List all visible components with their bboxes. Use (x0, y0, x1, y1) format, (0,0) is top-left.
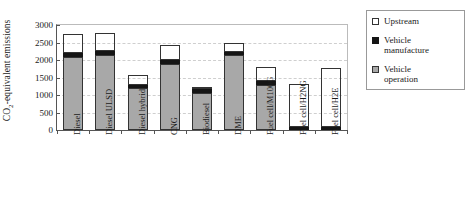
y-axis-tick-label: 3000 (35, 20, 57, 30)
legend-item-label: Vehiclemanufacture (384, 35, 429, 55)
y-axis-title-text: CO2-equivalent emissions (3, 19, 16, 121)
x-axis-label-text: Biodiesel (201, 103, 211, 135)
y-axis-tick-label: 500 (40, 108, 58, 118)
x-axis-tick (347, 130, 348, 134)
x-axis-label-text: Diesel (72, 113, 82, 135)
x-axis-tick (89, 130, 90, 134)
chart-figure: CO2-equivalent emissions 050010001500200… (0, 0, 469, 209)
x-axis-tick (154, 130, 155, 134)
chart-legend: UpstreamVehiclemanufactureVehicleoperati… (366, 10, 465, 90)
legend-swatch-operation-icon (372, 66, 379, 73)
y-axis-tick-label: 1500 (35, 73, 57, 83)
x-axis-label-diesel-ulsd: Diesel ULSD (98, 135, 110, 207)
legend-item-upstream[interactable]: Upstream (372, 16, 460, 26)
x-axis-tick (283, 130, 284, 134)
legend-swatch-upstream-icon (372, 18, 379, 25)
bar-segment-manufacture (128, 85, 148, 89)
y-axis-tick-label: 0 (49, 125, 58, 135)
legend-item-operation[interactable]: Vehicleoperation (372, 64, 460, 84)
legend-item-manufacture[interactable]: Vehiclemanufacture (372, 35, 460, 55)
bar-segment-undefined (63, 34, 83, 53)
y-axis-tick-label: 1000 (35, 90, 57, 100)
bar-segment-undefined (95, 33, 115, 52)
x-axis-tick (315, 130, 316, 134)
x-axis-label-diesel: Diesel (66, 135, 78, 207)
x-axis-label-fuel-cell-h2ng: Fuel cell/H2NG (292, 135, 304, 207)
bar-segment-undefined (192, 87, 212, 89)
bar-segment-manufacture (192, 89, 212, 93)
y-axis-tick-label: 2500 (35, 38, 57, 48)
bar-segment-undefined (160, 45, 180, 60)
y-axis-title: CO2-equivalent emissions (0, 0, 18, 140)
x-axis-label-fuel-cell-m100g: Fuel cell/M100G (259, 135, 271, 207)
x-axis-tick (250, 130, 251, 134)
bar-segment-manufacture (224, 52, 244, 55)
x-axis-label-text: DME (233, 116, 243, 135)
x-axis-label-biodiesel: Biodiesel (195, 135, 207, 207)
x-axis-label-text: CNG (169, 117, 179, 135)
bar-segment-manufacture (95, 51, 115, 55)
x-axis-label-dme: DME (227, 135, 239, 207)
x-axis-label-text: Fuel cell/M100G (265, 77, 275, 135)
x-axis-tick (57, 130, 58, 134)
x-axis-tick (186, 130, 187, 134)
bar-segment-undefined (224, 43, 244, 52)
x-axis-label-fuel-cell-h2e: Fuel cell/H2E (324, 135, 336, 207)
legend-item-label: Upstream (384, 16, 419, 26)
bar-segment-undefined (128, 75, 148, 84)
y-axis-tick-label: 2000 (35, 55, 57, 65)
x-axis-tick (121, 130, 122, 134)
legend-item-label: Vehicleoperation (384, 64, 418, 84)
x-axis-label-text: Diesel hybrid (137, 89, 147, 135)
x-axis-label-diesel-hybrid: Diesel hybrid (131, 135, 143, 207)
x-axis-label-text: Diesel ULSD (104, 89, 114, 135)
legend-swatch-manufacture-icon (372, 37, 379, 44)
x-axis-label-cng: CNG (163, 135, 175, 207)
bar-segment-manufacture (63, 53, 83, 57)
bar-segment-manufacture (160, 60, 180, 64)
x-axis-label-text: Fuel cell/H2E (330, 88, 340, 135)
x-axis-label-text: Fuel cell/H2NG (298, 80, 308, 135)
x-axis-tick (218, 130, 219, 134)
